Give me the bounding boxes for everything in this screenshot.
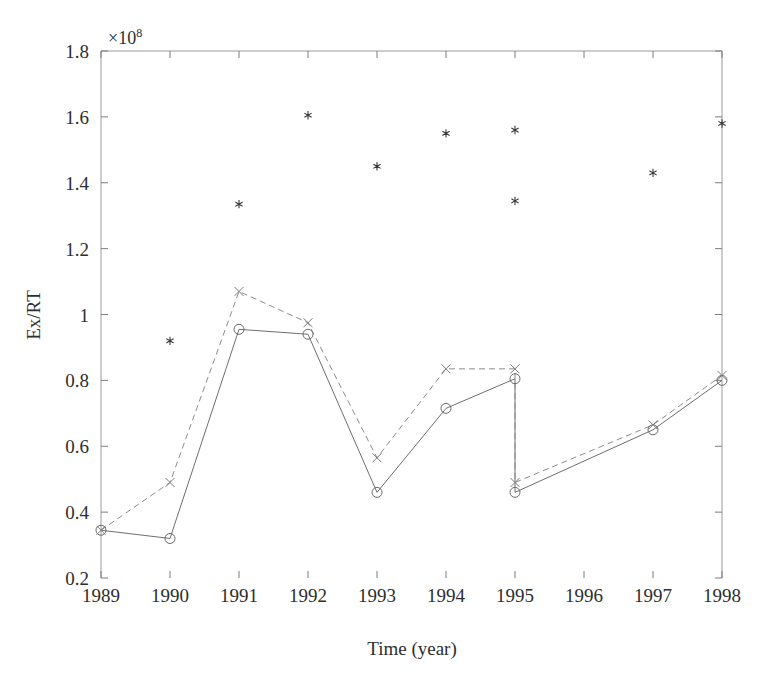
- y-tick-label: 1.8: [65, 41, 89, 62]
- x-tick-label: 1991: [220, 585, 258, 606]
- x-axis-title: Time (year): [367, 638, 457, 660]
- y-tick-label: 1.4: [65, 173, 89, 194]
- y-tick-label: 0.4: [65, 502, 89, 523]
- x-tick-label: 1993: [358, 585, 396, 606]
- y-axis-title: Ex/RT: [23, 290, 44, 340]
- line-chart-canvas: 0.20.40.60.811.21.41.61.8 19891990199119…: [0, 0, 775, 674]
- y-tick-label: 1: [80, 305, 90, 326]
- x-tick-label: 1989: [82, 585, 120, 606]
- y-tick-label: 0.6: [65, 436, 89, 457]
- x-tick-label: 1994: [427, 585, 466, 606]
- x-tick-label: 1996: [565, 585, 603, 606]
- x-tick-label: 1998: [703, 585, 741, 606]
- y-tick-label: 1.2: [65, 239, 89, 260]
- chart-background: [0, 0, 775, 674]
- x-tick-label: 1995: [496, 585, 534, 606]
- chart-figure: 0.20.40.60.811.21.41.61.8 19891990199119…: [0, 0, 775, 674]
- x-tick-label: 1990: [151, 585, 189, 606]
- x-tick-label: 1997: [634, 585, 672, 606]
- y-tick-label: 0.8: [65, 370, 89, 391]
- y-tick-label: 1.6: [65, 107, 89, 128]
- x-tick-label: 1992: [289, 585, 327, 606]
